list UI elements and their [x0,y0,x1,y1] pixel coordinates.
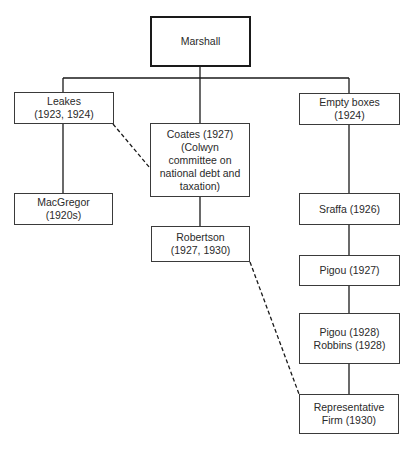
node-macgregor: MacGregor (1920s) [14,193,113,225]
node-robertson: Robertson (1927, 1930) [151,226,250,262]
node-representative-firm: Representative Firm (1930) [299,394,399,434]
node-leakes: Leakes (1923, 1924) [14,92,114,124]
node-pigou-1927: Pigou (1927) [299,255,400,286]
influence-tree-diagram: Marshall Leakes (1923, 1924) Empty boxes… [0,0,415,450]
connector-lines [0,0,415,450]
node-marshall: Marshall [150,16,251,67]
node-empty-boxes: Empty boxes (1924) [299,93,400,125]
edge-dashed-leakes-coates [113,124,150,168]
node-coates: Coates (1927) (Colwyn committee on natio… [150,123,250,197]
edge-dashed-robertson-repfirm [250,262,299,394]
node-pigou-robbins-1928: Pigou (1928) Robbins (1928) [299,313,400,364]
node-sraffa: Sraffa (1926) [299,193,400,225]
